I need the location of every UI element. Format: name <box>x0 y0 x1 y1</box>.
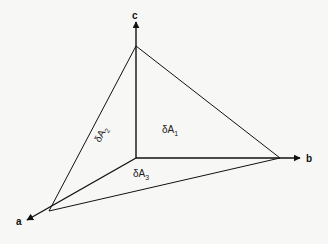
axis-label-c: c <box>132 10 138 21</box>
edge-c-a <box>49 46 136 211</box>
edge-a-b <box>49 158 280 211</box>
area-label-dA2: δA2 <box>92 124 111 144</box>
edge-c-b <box>136 46 280 158</box>
axis-label-a: a <box>16 216 22 227</box>
area-label-dA1: δA1 <box>162 124 178 137</box>
axis-label-b: b <box>306 153 312 164</box>
axis-a <box>27 158 136 220</box>
tetrahedron-diagram: c b a δA1 δA2 δA3 <box>0 0 328 244</box>
area-label-dA3: δA3 <box>133 168 149 181</box>
